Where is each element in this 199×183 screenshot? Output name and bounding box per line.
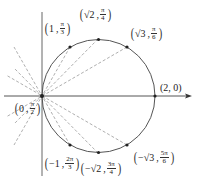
point-sqrt3-pi-6: [125, 45, 128, 48]
label-theta-den: 6: [162, 158, 166, 165]
point-1-pi-3: [68, 45, 71, 48]
label-r: √2: [84, 10, 95, 20]
label-r: 0: [19, 104, 24, 114]
label-theta-den: 3: [68, 164, 72, 171]
label-r: −√2: [85, 164, 101, 174]
point-sqrt2-pi-4: [97, 38, 100, 41]
point-2-0: [153, 94, 156, 97]
label-r: −√3: [138, 153, 154, 163]
label-theta-den: 6: [152, 34, 156, 41]
label-theta-den: 4: [109, 169, 113, 176]
label-point-negsqrt3-5pi-6: (−√3, 5π6): [133, 150, 175, 165]
label-point-2-0: (2, 0): [160, 83, 182, 93]
label-point-sqrt2-pi-4: (√2, π4): [79, 7, 112, 22]
point-0-pi-2: [40, 94, 44, 98]
point-negsqrt3-5pi-6: [125, 143, 128, 146]
label-text: (2, 0): [160, 83, 182, 93]
label-point-0-pi-2: (0, π2): [14, 101, 41, 116]
label-point-sqrt3-pi-6: (√3, π6): [130, 26, 163, 41]
label-point-1-pi-3: (1, π3): [44, 21, 71, 36]
label-theta-den: 3: [61, 29, 65, 36]
label-r: 1: [49, 24, 54, 34]
point-neg1-2pi-3: [68, 143, 71, 146]
label-r: −1: [49, 159, 60, 169]
label-r: √3: [135, 29, 146, 39]
point-negsqrt2-3pi-4: [97, 151, 100, 154]
label-point-neg1-2pi-3: (−1, 2π3): [44, 156, 80, 171]
label-theta-den: 4: [101, 15, 105, 22]
label-point-negsqrt2-3pi-4: (−√2, 3π4): [80, 161, 122, 176]
label-theta-den: 2: [31, 109, 35, 116]
